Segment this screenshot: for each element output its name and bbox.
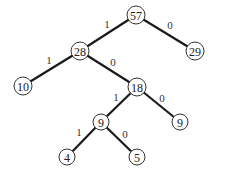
edge-label: 1: [76, 126, 82, 138]
edge-label: 0: [110, 56, 116, 68]
edge-label: 1: [46, 54, 52, 66]
node-value: 57: [130, 9, 142, 23]
tree-edges: [23, 15, 195, 157]
edge-labels: 10101010: [46, 18, 173, 140]
tree-node: 10: [14, 77, 32, 95]
node-value: 4: [64, 151, 70, 165]
huffman-tree-diagram: 10101010 57282910189945: [0, 0, 239, 173]
node-value: 9: [177, 116, 183, 130]
tree-node: 5: [129, 149, 145, 165]
node-value: 10: [17, 80, 29, 94]
node-value: 29: [189, 45, 201, 59]
edge-label: 0: [122, 128, 128, 140]
tree-edge: [80, 51, 137, 87]
node-value: 28: [74, 45, 86, 59]
edge-label: 0: [167, 19, 173, 31]
node-value: 18: [131, 81, 143, 95]
tree-edge: [136, 15, 195, 51]
node-value: 5: [134, 151, 140, 165]
edge-label: 1: [113, 91, 119, 103]
tree-node: 57: [127, 6, 145, 24]
node-value: 9: [98, 116, 104, 130]
tree-node: 9: [93, 114, 109, 130]
tree-node: 4: [59, 149, 75, 165]
tree-node: 18: [128, 78, 146, 96]
edge-label: 1: [104, 18, 110, 30]
edge-label: 0: [159, 92, 165, 104]
tree-node: 9: [172, 114, 188, 130]
tree-node: 29: [186, 42, 204, 60]
tree-node: 28: [71, 42, 89, 60]
